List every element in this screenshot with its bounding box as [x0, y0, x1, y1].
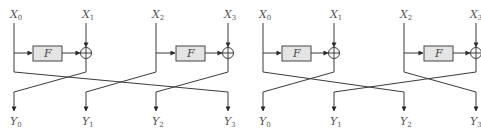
f-label-2: F: [186, 47, 195, 60]
input-label-x2: X2: [399, 8, 412, 22]
diagram-canvas: X0 X1 X2 X3 F F: [0, 0, 481, 137]
input-label-x3: X3: [469, 8, 481, 22]
left-network: X0 X1 X2 X3 F F: [9, 8, 236, 129]
f-label-1: F: [43, 47, 52, 60]
wire-x2-to-y1: [86, 23, 156, 111]
output-label-y0: Y0: [10, 115, 22, 129]
input-label-x2: X2: [151, 8, 164, 22]
f-label-1: F: [292, 47, 301, 60]
right-network: X0 X1 X2 X3 F F Y0 Y1 Y: [258, 8, 481, 129]
xor-icon-2: [223, 48, 234, 59]
output-label-y0: Y0: [259, 115, 271, 129]
wire-xor1-to-y0: [14, 59, 86, 112]
input-label-x0: X0: [9, 8, 22, 22]
input-label-x0: X0: [258, 8, 271, 22]
input-label-x3: X3: [223, 8, 236, 22]
input-label-x1: X1: [81, 8, 94, 22]
output-label-y3: Y3: [470, 115, 481, 129]
output-label-y2: Y2: [400, 115, 412, 129]
output-label-y1: Y1: [82, 115, 94, 129]
wire-xor1-to-y0: [263, 59, 334, 112]
xor-icon-1: [329, 48, 340, 59]
wire-x0-to-y3: [14, 23, 228, 111]
output-label-y3: Y3: [224, 115, 236, 129]
feistel-diagrams: X0 X1 X2 X3 F F: [0, 0, 481, 137]
input-label-x1: X1: [329, 8, 342, 22]
wire-x2-to-y3: [404, 23, 476, 111]
output-label-y1: Y1: [330, 115, 342, 129]
xor-icon-2: [471, 48, 481, 59]
f-label-2: F: [434, 47, 443, 60]
wire-xor2-to-y2: [156, 59, 228, 112]
xor-icon-1: [81, 48, 92, 59]
output-label-y2: Y2: [152, 115, 164, 129]
